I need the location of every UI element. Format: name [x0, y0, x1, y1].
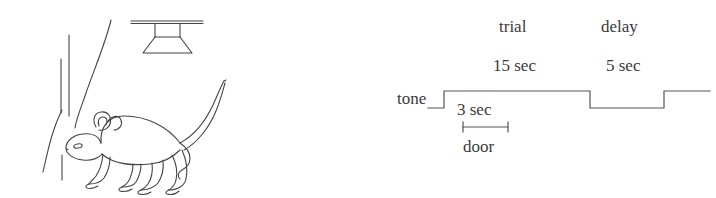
- delay-label: delay: [601, 18, 638, 35]
- door-duration-bracket: [463, 122, 508, 132]
- figure-container: trial trial delay 15 sec 5 sec tone 3 se…: [0, 0, 716, 198]
- chamber-divider-curve: [75, 20, 111, 128]
- chamber-scene-svg: [0, 0, 380, 198]
- tone-signal-label: tone: [397, 90, 426, 107]
- ceiling-speaker-icon: [131, 21, 203, 53]
- tone-timing-diagram: trial trial delay 15 sec 5 sec tone 3 se…: [380, 0, 716, 198]
- door-duration-label: 3 sec: [457, 101, 491, 118]
- rat-in-chamber-illustration: [0, 0, 380, 198]
- tone-waveform-svg: [380, 0, 716, 198]
- trial-label: trial: [499, 18, 526, 35]
- trial-duration-label: 15 sec: [493, 57, 536, 74]
- rat-drawing: [66, 80, 226, 194]
- door-label: door: [463, 138, 494, 155]
- chamber-wall-lines: [43, 35, 69, 180]
- delay-duration-label: 5 sec: [606, 57, 640, 74]
